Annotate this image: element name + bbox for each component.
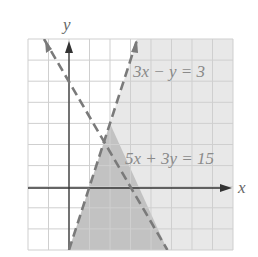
x-axis-label: x [237, 178, 246, 197]
equation-label-line2: 5x + 3y = 15 [125, 149, 214, 168]
inequality-graph: y x 3x − y = 3 5x + 3y = 15 [0, 0, 258, 257]
arrow-tip-line1-icon [131, 40, 138, 53]
equation-label-line1: 3x − y = 3 [132, 62, 205, 81]
y-axis-label: y [61, 15, 71, 34]
y-axis-arrow-icon [65, 41, 73, 53]
